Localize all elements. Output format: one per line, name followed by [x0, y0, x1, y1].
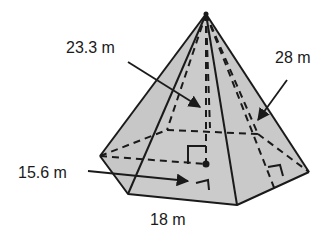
- apothem-label: 15.6 m: [18, 165, 67, 181]
- center-point: [203, 161, 210, 168]
- pyramid-faces: [100, 14, 309, 205]
- hexagonal-pyramid-figure: [0, 0, 329, 239]
- apex-point: [204, 12, 209, 17]
- lateral-edge-label: 28 m: [275, 50, 311, 66]
- base-side-label: 18 m: [150, 212, 186, 228]
- slant-height-label: 23.3 m: [66, 40, 115, 56]
